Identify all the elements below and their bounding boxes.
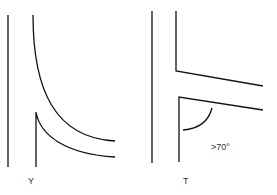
y-main-wall-curve bbox=[33, 15, 115, 141]
t-upper-wall bbox=[176, 11, 263, 86]
angle-label: >70° bbox=[211, 142, 230, 152]
angle-arc-icon bbox=[183, 108, 212, 130]
junction-diagram bbox=[0, 0, 277, 195]
t-label: T bbox=[183, 176, 189, 186]
t-lower-wall bbox=[179, 97, 263, 162]
y-label: Y bbox=[28, 176, 34, 186]
